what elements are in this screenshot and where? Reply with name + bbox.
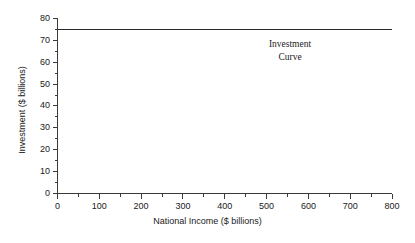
x-tick-label-600: 600 xyxy=(293,201,323,211)
x-tick-label-200: 200 xyxy=(126,201,156,211)
annotation-line-2: Curve xyxy=(244,51,336,64)
annotation-line-1: Investment xyxy=(244,38,336,51)
y-tick-label-10: 10 xyxy=(24,166,50,176)
x-tick-label-100: 100 xyxy=(84,201,114,211)
x-tick-label-800: 800 xyxy=(377,201,407,211)
y-tick-label-80: 80 xyxy=(24,13,50,23)
x-tick-label-300: 300 xyxy=(168,201,198,211)
x-tick-label-400: 400 xyxy=(210,201,240,211)
x-tick-label-700: 700 xyxy=(335,201,365,211)
y-tick-label-70: 70 xyxy=(24,35,50,45)
y-tick-label-50: 50 xyxy=(24,79,50,89)
y-axis-title: Investment ($ billions) xyxy=(17,30,27,190)
x-axis-title: National Income ($ billions) xyxy=(0,216,415,226)
investment-curve-annotation: Investment Curve xyxy=(244,38,336,64)
y-tick-label-20: 20 xyxy=(24,144,50,154)
y-tick-label-30: 30 xyxy=(24,122,50,132)
y-tick-label-60: 60 xyxy=(24,57,50,67)
x-tick-label-0: 0 xyxy=(43,201,73,211)
y-tick-label-40: 40 xyxy=(24,100,50,110)
y-tick-label-0: 0 xyxy=(24,188,50,198)
x-tick-label-500: 500 xyxy=(252,201,282,211)
investment-curve-chart: 80 70 60 50 40 30 20 10 0 0 100 200 300 … xyxy=(0,0,415,243)
